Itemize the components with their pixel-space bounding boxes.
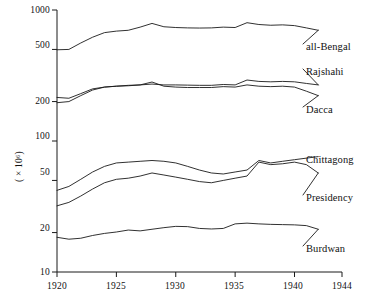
y-tick-20: 20 [10, 223, 50, 233]
x-tick-1925: 1925 [96, 281, 136, 291]
series-label-burdwan: Burdwan [306, 243, 345, 254]
series-label-all-bengal: all-Bengal [306, 41, 351, 52]
series-line-rajshahi [57, 80, 318, 103]
chart-figure: 1000 500 200 100 50 20 10 ( × 10⁶) 1920 … [0, 0, 376, 300]
y-tick-500: 500 [10, 40, 50, 50]
series-label-dacca: Dacca [306, 104, 333, 115]
series-label-presidency: Presidency [306, 192, 353, 203]
y-axis-title: ( × 10⁶) [14, 151, 24, 182]
series-line-dacca [57, 82, 318, 98]
x-tick-1935: 1935 [214, 281, 254, 291]
x-tick-1944: 1944 [322, 281, 362, 291]
series-line-presidency [57, 162, 318, 206]
y-tick-200: 200 [10, 96, 50, 106]
series-label-chittagong: Chittagong [306, 154, 354, 165]
x-tick-1940: 1940 [273, 281, 313, 291]
y-tick-100: 100 [10, 131, 50, 141]
series-line-chittagong [57, 157, 318, 191]
x-tick-1920: 1920 [37, 281, 77, 291]
series-label-rajshahi: Rajshahi [306, 66, 344, 77]
y-tick-10: 10 [10, 267, 50, 277]
series-line-all-bengal [57, 23, 318, 50]
y-tick-1000: 1000 [10, 5, 50, 15]
x-tick-1930: 1930 [155, 281, 195, 291]
series-line-burdwan [57, 223, 318, 239]
